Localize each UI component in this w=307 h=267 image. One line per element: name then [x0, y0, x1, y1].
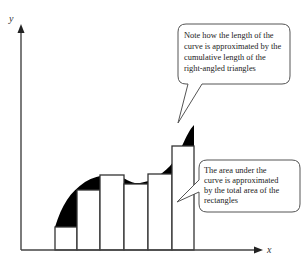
riemann-sum-diagram: y x Note how the length of the curve is … — [0, 0, 307, 267]
callout-top-line-3: cumulative length of the — [184, 53, 266, 62]
rectangle-5 — [148, 174, 172, 250]
x-axis-arrow-icon — [254, 247, 263, 254]
callout-area: The area under the curve is approximated… — [177, 160, 300, 212]
callout-bottom-line-2: curve is approximated — [204, 176, 279, 185]
x-axis-label: x — [266, 244, 272, 255]
callout-bottom-line-1: The area under the — [204, 166, 267, 175]
rectangle-4 — [124, 184, 148, 250]
rectangle-1 — [55, 227, 77, 250]
callout-top-line-2: curve is approximated by the — [184, 42, 281, 51]
callout-curve-length: Note how the length of the curve is appr… — [178, 24, 290, 123]
y-axis-label: y — [8, 13, 14, 24]
callout-bottom-line-4: rectangles — [204, 196, 238, 205]
rectangle-3 — [100, 175, 124, 250]
callout-bottom-line-3: by the total area of the — [204, 186, 279, 195]
y-axis-arrow-icon — [18, 24, 25, 33]
rectangle-2 — [77, 190, 100, 250]
callout-top-line-1: Note how the length of the — [184, 31, 274, 40]
callout-top-line-4: right-angled triangles — [184, 64, 256, 73]
